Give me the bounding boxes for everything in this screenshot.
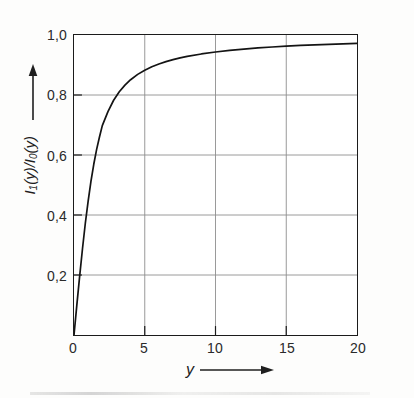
y-axis-label-group: I1(y)/I0(y)	[14, 60, 48, 280]
y-axis-tick-marks	[74, 35, 357, 335]
y-axis-label: I1(y)/I0(y)	[21, 65, 40, 265]
x-tick-label-0: 0	[53, 341, 93, 355]
x-tick-label-15: 15	[267, 341, 307, 355]
x-axis-label-group: y	[186, 358, 274, 382]
y-tick-label-1-0: 1,0	[27, 28, 67, 42]
x-tick-label-5: 5	[124, 341, 164, 355]
right-arrow-icon	[200, 364, 274, 376]
x-axis-label: y	[186, 362, 194, 378]
x-tick-label-20: 20	[338, 341, 378, 355]
x-tick-label-10: 10	[195, 341, 235, 355]
plot-area	[73, 34, 358, 336]
figure-container: 1,0 0,8 0,6 0,4 0,2 0 5 10 15 20 I1(y)/I…	[0, 0, 414, 398]
scan-artifact-line	[30, 392, 370, 395]
